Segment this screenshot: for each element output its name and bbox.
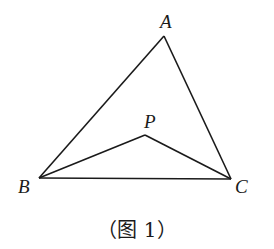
segment-bc <box>39 178 231 179</box>
label-b: B <box>18 176 30 197</box>
label-p: P <box>143 111 156 132</box>
segment-ac <box>164 36 231 179</box>
triangle-diagram: A P B C （图 1） <box>0 0 274 249</box>
label-c: C <box>235 176 248 197</box>
figure-caption: （图 1） <box>97 218 176 242</box>
segment-pc <box>145 135 231 179</box>
segment-pb <box>39 135 145 178</box>
label-a: A <box>158 11 172 32</box>
segment-ab <box>39 36 164 178</box>
